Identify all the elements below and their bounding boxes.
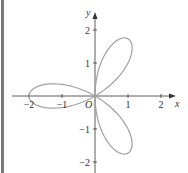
y-tick-label: 2	[85, 25, 90, 36]
y-tick-label: 1	[85, 58, 90, 69]
axes	[12, 12, 176, 173]
x-tick-label: −1	[57, 99, 68, 110]
x-axis-label: x	[174, 98, 180, 109]
y-tick-label: −1	[79, 124, 90, 135]
x-tick-label: 2	[159, 99, 164, 110]
y-tick-label: −2	[79, 157, 90, 168]
tick-labels: −2−11221−1−2xyO	[24, 7, 180, 168]
y-axis-arrow-icon	[93, 12, 98, 19]
x-tick-label: −2	[24, 99, 35, 110]
rose-curve-plot: −2−11221−1−2xyO	[0, 0, 188, 173]
origin-label: O	[85, 99, 92, 110]
y-axis-label: y	[85, 7, 91, 18]
x-tick-label: 1	[126, 99, 131, 110]
